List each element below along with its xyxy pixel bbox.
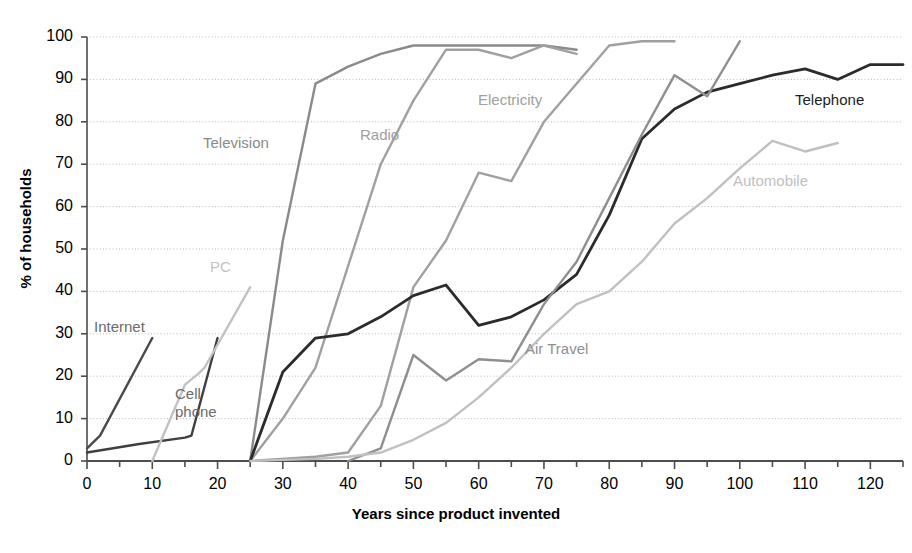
x-tick-label: 20 bbox=[198, 475, 238, 493]
series-line-pc bbox=[152, 287, 250, 461]
y-tick-label: 80 bbox=[33, 112, 73, 130]
x-tick-label: 90 bbox=[655, 475, 695, 493]
series-label-text: Automobile bbox=[733, 172, 808, 190]
y-tick-label: 30 bbox=[33, 324, 73, 342]
series-label-text: Internet bbox=[94, 318, 145, 336]
y-tick-label: 0 bbox=[33, 451, 73, 469]
y-tick-label: 40 bbox=[33, 281, 73, 299]
x-tick-label: 100 bbox=[720, 475, 760, 493]
series-label-air-travel: Air Travel bbox=[525, 340, 588, 358]
series-label-pc: PC bbox=[210, 258, 231, 276]
x-axis-title: Years since product invented bbox=[0, 505, 912, 522]
y-tick-label: 70 bbox=[33, 154, 73, 172]
y-tick-label: 60 bbox=[33, 197, 73, 215]
y-tick-label: 10 bbox=[33, 409, 73, 427]
x-tick-label: 10 bbox=[132, 475, 172, 493]
series-label-automobile: Automobile bbox=[733, 172, 808, 190]
series-label-text: Telephone bbox=[795, 91, 864, 109]
x-tick-label: 40 bbox=[328, 475, 368, 493]
y-tick-label: 90 bbox=[33, 69, 73, 87]
y-axis-title: % of households bbox=[17, 119, 34, 339]
series-line-electricity bbox=[250, 41, 674, 461]
series-label-text: Electricity bbox=[478, 91, 542, 109]
series-label-cell-phone: Cellphone bbox=[175, 385, 217, 420]
series-label-electricity: Electricity bbox=[478, 91, 542, 109]
x-tick-label: 70 bbox=[524, 475, 564, 493]
series-label-text: Radio bbox=[360, 126, 399, 144]
series-label-text: Cell bbox=[175, 385, 217, 403]
x-tick-label: 30 bbox=[263, 475, 303, 493]
y-tick-label: 20 bbox=[33, 366, 73, 384]
series-label-radio: Radio bbox=[360, 126, 399, 144]
x-tick-label: 80 bbox=[589, 475, 629, 493]
x-tick-label: 60 bbox=[459, 475, 499, 493]
series-label-text: Air Travel bbox=[525, 340, 588, 358]
series-label-internet: Internet bbox=[94, 318, 145, 336]
chart-container: % of households Years since product inve… bbox=[0, 0, 912, 553]
x-tick-label: 50 bbox=[393, 475, 433, 493]
series-label-text: Television bbox=[203, 134, 269, 152]
y-tick-label: 100 bbox=[33, 27, 73, 45]
series-label-text: phone bbox=[175, 403, 217, 421]
line-chart-plot bbox=[0, 0, 912, 553]
x-tick-label: 120 bbox=[850, 475, 890, 493]
y-tick-label: 50 bbox=[33, 239, 73, 257]
series-label-telephone: Telephone bbox=[795, 91, 864, 109]
x-tick-label: 110 bbox=[785, 475, 825, 493]
series-label-text: PC bbox=[210, 258, 231, 276]
x-tick-label: 0 bbox=[67, 475, 107, 493]
series-label-television: Television bbox=[203, 134, 269, 152]
series-line-internet bbox=[87, 338, 152, 448]
